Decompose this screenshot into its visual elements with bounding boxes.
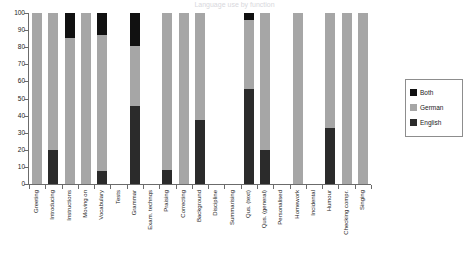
table-row [146,13,156,184]
table-row [276,13,286,184]
table-row [130,13,140,184]
x-axis-tick-mark [306,185,307,189]
bar-segment-english [130,106,140,184]
table-row [162,13,172,184]
x-axis-tick-mark [371,185,372,189]
table-row [179,13,189,184]
x-axis-label: Homework [294,190,300,219]
x-axis-tick-mark [62,185,63,189]
plot-area [28,13,371,185]
x-axis-tick-mark [176,185,177,189]
legend-swatch-german [410,104,417,111]
x-axis-label: Qus. (text) [245,190,251,218]
bar-segment-both [97,13,107,35]
table-row [211,13,221,184]
table-row [342,13,352,184]
x-axis-label: Personalised [277,190,283,225]
x-axis-label-slot: Singing [356,190,368,259]
bar-segment-german [48,13,58,150]
table-row [48,13,58,184]
x-axis-label-slot: Praising [160,190,172,259]
bar-segment-both [65,13,75,38]
legend: Both German English [405,79,463,137]
x-axis-label-slot: Qus. (general) [258,190,270,259]
legend-label-german: German [420,104,443,111]
bar-segment-english [48,150,58,184]
bar-segment-english [260,150,270,184]
bar-segment-english [97,171,107,184]
table-row [325,13,335,184]
legend-label-both: Both [420,89,433,96]
x-axis-tick-mark [355,185,356,189]
x-axis-tick-mark [45,185,46,189]
x-axis-labels: GreetingIntroducingInstructionsMoving on… [28,190,372,259]
x-axis-label: Discipline [212,190,218,216]
x-axis-label-slot: Summarising [226,190,238,259]
table-row [32,13,42,184]
table-row [81,13,91,184]
table-row [228,13,238,184]
x-axis-label: Humour [326,190,332,211]
legend-label-english: English [420,119,441,126]
x-axis-label-slot: Personalised [274,190,286,259]
bar-segment-english [162,170,172,184]
bar-segment-german [244,20,254,89]
bar-segment-german [32,13,42,184]
table-row [244,13,254,184]
x-axis-tick-mark [224,185,225,189]
x-axis-label-slot: Moving on [79,190,91,259]
bar-segment-german [293,13,303,184]
x-axis-label-slot: Correcting [177,190,189,259]
x-axis-tick-mark [29,185,30,189]
table-row [97,13,107,184]
x-axis-ticks [28,185,372,189]
x-axis-label: Introducing [49,190,55,220]
x-axis-tick-mark [338,185,339,189]
bars-container [29,13,371,184]
x-axis-tick-mark [241,185,242,189]
x-axis-label-slot: Greeting [30,190,42,259]
x-axis-tick-mark [143,185,144,189]
legend-item: English [410,115,458,130]
bar-segment-both [130,13,140,45]
x-axis-label: Grammar [131,190,137,215]
bar-segment-german [325,13,335,128]
x-axis-label-slot: Qus. (text) [242,190,254,259]
x-axis-label-slot: Incidental [307,190,319,259]
x-axis-label-slot: Humour [323,190,335,259]
x-axis-tick-mark [94,185,95,189]
stacked-bar-chart: Language use by function 010203040506070… [0,0,469,259]
x-axis-tick-mark [110,185,111,189]
x-axis-label-slot: Checking compr. [340,190,352,259]
y-axis: 0102030405060708090100 [0,13,28,186]
x-axis-label: Greeting [33,190,39,213]
bar-segment-german [179,13,189,184]
bar-segment-english [244,89,254,184]
bar-segment-german [65,38,75,184]
table-row [358,13,368,184]
x-axis-label: Praising [163,190,169,212]
x-axis-label-slot: Vocabulary [95,190,107,259]
bar-segment-german [195,13,205,120]
chart-title: Language use by function [0,0,469,9]
x-axis-label-slot: Exam. technqs [144,190,156,259]
x-axis-label: Exam. technqs [147,190,153,230]
x-axis-tick-mark [322,185,323,189]
x-axis-label: Summarising [229,190,235,225]
x-axis-tick-mark [273,185,274,189]
bar-segment-german [81,13,91,184]
x-axis-tick-mark [127,185,128,189]
x-axis-tick-mark [257,185,258,189]
x-axis-label: Qus. (general) [261,190,267,228]
bar-segment-both [244,13,254,20]
table-row [293,13,303,184]
x-axis-label-slot: Grammar [128,190,140,259]
bar-segment-german [162,13,172,170]
x-axis-label-slot: Homework [291,190,303,259]
x-axis-label: Instructions [66,190,72,221]
legend-swatch-both [410,89,417,96]
x-axis-label: Vocabulary [98,190,104,220]
x-axis-label: Checking compr. [343,190,349,235]
table-row [195,13,205,184]
legend-item: German [410,100,458,115]
